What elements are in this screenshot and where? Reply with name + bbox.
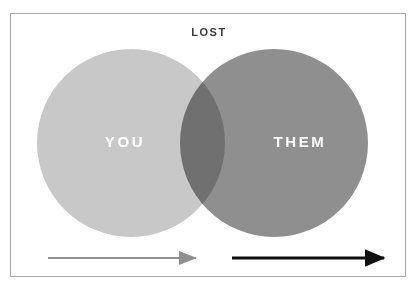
venn-label-you: YOU [55,132,195,152]
venn-label-them: THEM [230,132,370,152]
venn-stage: YOU THEM [0,0,418,288]
venn-diagram-figure: LOST YOU THEM [0,0,418,288]
